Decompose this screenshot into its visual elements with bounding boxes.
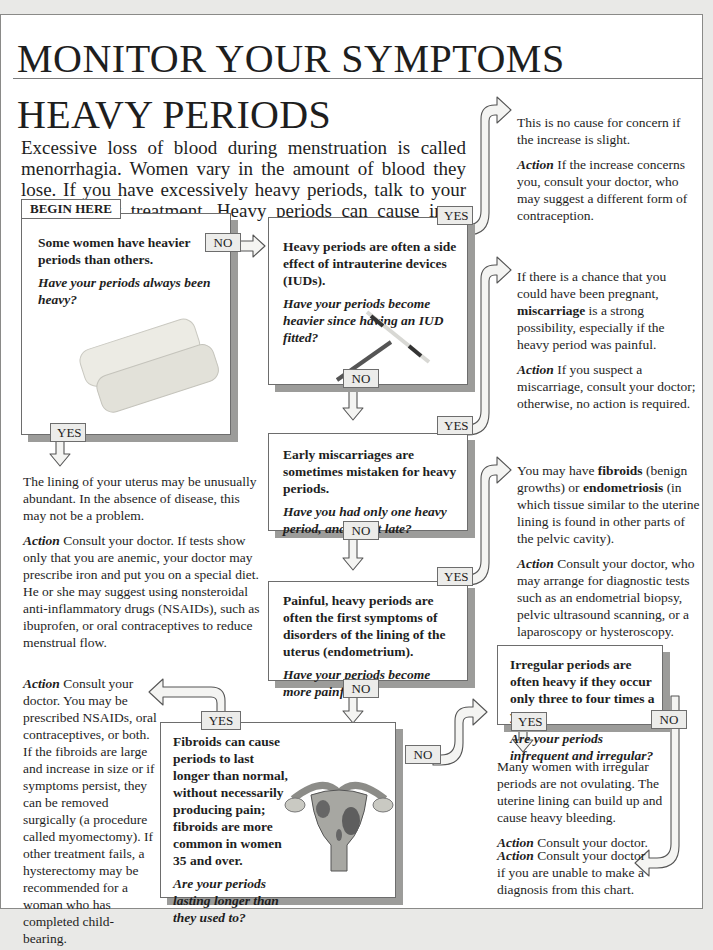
question-box-2: Heavy periods are often a side effect of… [268, 217, 468, 385]
yes-label[interactable]: YES [437, 206, 473, 225]
outcome-q6-yes: Many women with irregular periods are no… [497, 758, 667, 859]
outcome-action: Action If you suspect a miscarriage, con… [517, 361, 697, 412]
text: If there is a chance that you could have… [517, 269, 666, 301]
action-label: Action [23, 533, 60, 548]
question-statement: Early miscarriages are sometimes mistake… [283, 446, 457, 497]
outcome-action: Action Consult your doctor, who may arra… [517, 555, 701, 640]
question-statement: Fibroids can cause periods to last longe… [173, 733, 289, 869]
begin-here-label: BEGIN HERE [21, 199, 121, 219]
section-title: MONITOR YOUR SYMPTOMS [17, 37, 565, 81]
keyword: miscarriage [517, 303, 585, 318]
outcome-q6-no: Action Consult your doctor if you are un… [497, 847, 647, 906]
outcome-q5-yes: Action Consult your doctor. You may be p… [23, 675, 157, 950]
action-label: Action [23, 676, 60, 691]
question-text: Have your periods always been heavy? [38, 274, 220, 308]
outcome-text: If there is a chance that you could have… [517, 268, 697, 353]
outcome-q1-yes: The lining of your uterus may be unusual… [23, 473, 263, 659]
outcome-text: The lining of your uterus may be unusual… [23, 473, 263, 524]
no-label[interactable]: NO [405, 745, 441, 764]
no-label[interactable]: NO [205, 233, 241, 252]
page-title: HEAVY PERIODS [17, 93, 331, 137]
action-label: Action [517, 157, 554, 172]
yes-label[interactable]: YES [437, 416, 473, 435]
question-box-1: Some women have heavier periods than oth… [21, 213, 231, 435]
question-text: Are your periods lasting longer than the… [173, 875, 289, 926]
curved-arrow-icon [433, 699, 487, 765]
action-text: Consult your doctor. If tests show only … [23, 533, 260, 650]
outcome-action: Action If the increase concerns you, con… [517, 156, 697, 224]
keyword: endometriosis [583, 480, 663, 495]
no-label[interactable]: NO [343, 679, 379, 698]
yes-label[interactable]: YES [437, 567, 473, 586]
outcome-action: Action Consult your doctor if you are un… [497, 847, 647, 898]
title-divider [13, 78, 703, 79]
keyword: fibroids [598, 463, 643, 478]
action-label: Action [517, 556, 554, 571]
question-statement: Some women have heavier periods than oth… [38, 234, 220, 268]
question-box-4: Painful, heavy periods are often the fir… [268, 581, 468, 681]
outcome-action: Action Consult your doctor. If tests sho… [23, 532, 263, 651]
text: You may have [517, 463, 598, 478]
no-label[interactable]: NO [651, 710, 687, 729]
curved-arrow-icon [467, 457, 511, 585]
outcome-text: Many women with irregular periods are no… [497, 758, 667, 826]
no-label[interactable]: NO [343, 369, 379, 388]
outcome-q3-yes: If there is a chance that you could have… [517, 268, 697, 420]
no-label[interactable]: NO [343, 521, 379, 540]
sanitary-pads-illustration [72, 310, 222, 420]
action-label: Action [497, 848, 534, 863]
question-box-3: Early miscarriages are sometimes mistake… [268, 433, 468, 531]
question-statement: Heavy periods are often a side effect of… [283, 238, 457, 289]
uterus-with-fibroids-illustration [279, 759, 399, 879]
yes-label[interactable]: YES [201, 711, 241, 730]
outcome-action: Action Consult your doctor. You may be p… [23, 675, 157, 947]
arrow-down-icon [343, 384, 363, 420]
curved-arrow-icon [467, 257, 511, 435]
outcome-q2-yes: This is no cause for concern if the incr… [517, 114, 697, 232]
outcome-text: This is no cause for concern if the incr… [517, 114, 697, 148]
action-label: Action [517, 362, 554, 377]
outcome-text: You may have fibroids (benign growths) o… [517, 462, 701, 547]
yes-label[interactable]: YES [50, 423, 86, 442]
chart-page: MONITOR YOUR SYMPTOMS HEAVY PERIODS Exce… [0, 14, 703, 909]
question-box-5: Fibroids can cause periods to last longe… [160, 722, 396, 898]
action-text: Consult your doctor. You may be prescrib… [23, 676, 157, 946]
question-statement: Painful, heavy periods are often the fir… [283, 592, 457, 660]
outcome-q4-yes: You may have fibroids (benign growths) o… [517, 462, 701, 648]
yes-label[interactable]: YES [511, 712, 547, 731]
curved-arrow-icon [467, 97, 511, 235]
